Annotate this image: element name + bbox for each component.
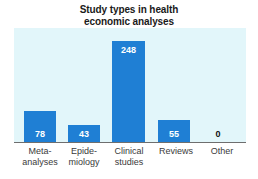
x-tick-label-clinical-studies-line-1: Clinical xyxy=(104,146,154,157)
chart-title: Study types in health economic analyses xyxy=(0,4,258,28)
chart-title-line-2: economic analyses xyxy=(0,16,258,28)
x-tick-label-reviews: Reviews xyxy=(152,146,200,157)
bar-epidemiology: 43 xyxy=(68,125,100,143)
bar-reviews: 55 xyxy=(158,120,190,143)
bar-clinical-studies: 248 xyxy=(112,41,145,143)
x-tick-label-clinical-studies: Clinical studies xyxy=(104,146,154,168)
x-tick-label-other-line-1: Other xyxy=(198,146,246,157)
x-tick-label-epidemiology: Epide- miology xyxy=(60,146,108,168)
x-tick-label-clinical-studies-line-2: studies xyxy=(104,157,154,168)
x-tick-label-meta-analyses: Meta- analyses xyxy=(16,146,64,168)
x-tick-label-epidemiology-line-2: miology xyxy=(60,157,108,168)
x-tick-label-meta-analyses-line-1: Meta- xyxy=(16,146,64,157)
x-tick-label-other: Other xyxy=(198,146,246,157)
x-axis-line xyxy=(14,142,246,143)
bar-value-clinical-studies: 248 xyxy=(112,45,145,55)
plot-area: 78 43 248 55 0 xyxy=(14,28,246,143)
bar-value-meta-analyses: 78 xyxy=(24,129,56,139)
x-tick-label-epidemiology-line-1: Epide- xyxy=(60,146,108,157)
bar-value-epidemiology: 43 xyxy=(68,129,100,139)
x-tick-label-reviews-line-1: Reviews xyxy=(152,146,200,157)
x-tick-label-meta-analyses-line-2: analyses xyxy=(16,157,64,168)
bar-chart-figure: Study types in health economic analyses … xyxy=(0,0,258,179)
chart-title-line-1: Study types in health xyxy=(0,4,258,16)
bar-meta-analyses: 78 xyxy=(24,111,56,143)
bar-value-reviews: 55 xyxy=(158,129,190,139)
bar-value-other: 0 xyxy=(202,129,234,139)
